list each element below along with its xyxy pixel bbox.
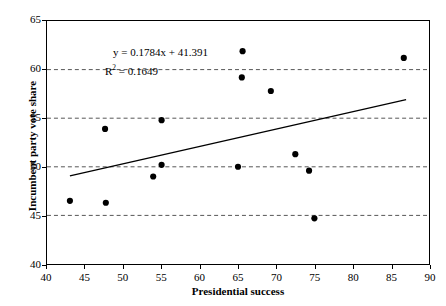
x-tick-label: 45 (64, 272, 104, 283)
y-tick-label: 55 (5, 112, 41, 123)
x-axis-title: Presidential success (46, 285, 430, 297)
data-point (159, 162, 165, 168)
r-squared-line: R2 = 0.1649 (105, 60, 208, 79)
x-tick-mark (123, 265, 124, 269)
regression-equation: y = 0.1784x + 41.391 (105, 45, 208, 60)
gridlines (47, 70, 429, 216)
data-point (103, 200, 109, 206)
data-point (159, 117, 165, 123)
x-tick-label: 70 (256, 272, 296, 283)
x-tick-mark (392, 265, 393, 269)
y-tick-label: 40 (5, 259, 41, 270)
data-point (150, 173, 156, 179)
y-tick-label: 50 (5, 161, 41, 172)
x-tick-label: 90 (410, 272, 446, 283)
r-squared-value: = 0.1649 (116, 65, 158, 77)
x-tick-label: 75 (295, 272, 335, 283)
x-tick-mark (276, 265, 277, 269)
y-tick-label: 45 (5, 210, 41, 221)
regression-annotation: y = 0.1784x + 41.391 R2 = 0.1649 (105, 45, 208, 79)
x-tick-mark (46, 265, 47, 269)
data-point (239, 74, 245, 80)
y-tick-label: 60 (5, 63, 41, 74)
x-tick-label: 85 (372, 272, 412, 283)
data-point (235, 164, 241, 170)
x-tick-label: 80 (333, 272, 373, 283)
x-tick-label: 50 (103, 272, 143, 283)
x-tick-mark (315, 265, 316, 269)
data-point (401, 55, 407, 61)
x-tick-mark (353, 265, 354, 269)
data-point (311, 215, 317, 221)
data-point (268, 88, 274, 94)
data-point (102, 126, 108, 132)
x-tick-label: 55 (141, 272, 181, 283)
x-tick-mark (161, 265, 162, 269)
data-point (240, 48, 246, 54)
data-point (67, 198, 73, 204)
x-tick-mark (430, 265, 431, 269)
x-tick-label: 40 (26, 272, 66, 283)
x-tick-label: 60 (180, 272, 220, 283)
data-point (306, 168, 312, 174)
data-point (292, 151, 298, 157)
x-tick-mark (200, 265, 201, 269)
x-tick-label: 65 (218, 272, 258, 283)
y-tick-label: 65 (5, 14, 41, 25)
x-tick-mark (238, 265, 239, 269)
scatter-chart-figure: Incumbent party vote share 404550556065 … (0, 0, 446, 306)
x-tick-mark (84, 265, 85, 269)
plot-area: y = 0.1784x + 41.391 R2 = 0.1649 (46, 20, 430, 265)
